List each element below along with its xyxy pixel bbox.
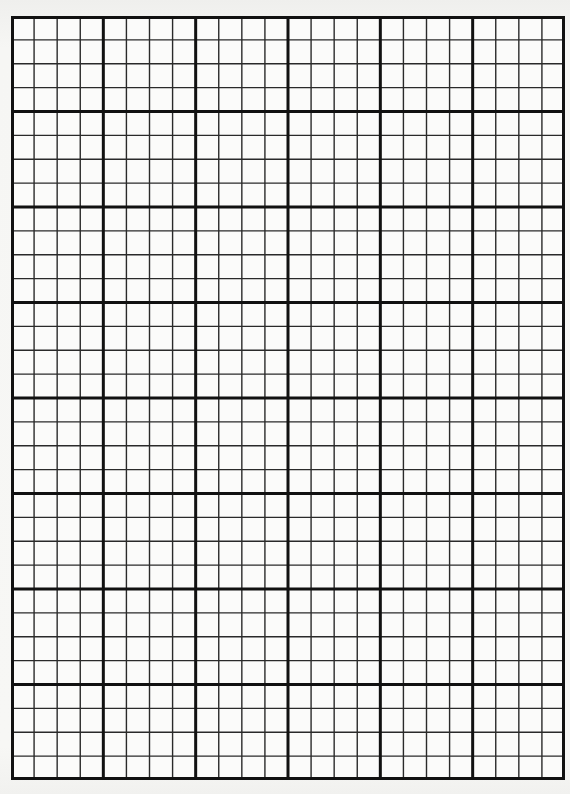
grid-area — [11, 16, 565, 780]
grid-lines — [11, 16, 565, 780]
graph-paper-sheet — [0, 0, 570, 794]
